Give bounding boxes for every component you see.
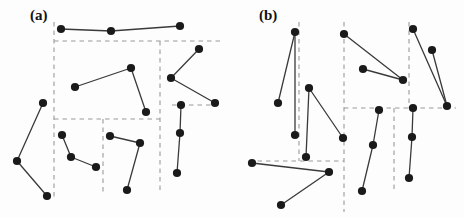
data-point-dot (291, 28, 299, 36)
data-point-dot (123, 186, 131, 194)
edge-segment (278, 32, 295, 103)
edge-segment (362, 145, 373, 191)
data-point-dot (375, 106, 383, 114)
edge-segment (17, 161, 47, 196)
data-point-dot (359, 65, 367, 73)
data-point-dot (248, 159, 256, 167)
data-point-dot (58, 131, 66, 139)
data-point-dot (409, 104, 417, 112)
edge-segment (75, 68, 131, 87)
edge-segments (17, 26, 447, 205)
data-point-dot (176, 129, 184, 137)
data-point-dot (136, 139, 144, 147)
edge-segment (412, 108, 413, 137)
data-point-dot (177, 101, 185, 109)
data-point-dot (142, 108, 150, 116)
data-point-dot (92, 163, 100, 171)
data-point-dot (302, 153, 310, 161)
data-point-dot (305, 84, 313, 92)
data-point-dot (358, 187, 366, 195)
edge-segment (171, 78, 215, 103)
data-point-dot (399, 76, 407, 84)
edge-segment (111, 26, 180, 31)
data-point-dot (43, 192, 51, 200)
data-point-dot (127, 64, 135, 72)
data-point-dot (67, 153, 75, 161)
data-point-dot (369, 141, 377, 149)
data-point-dot (405, 174, 413, 182)
edge-segment (61, 29, 111, 31)
data-point-dot (173, 169, 181, 177)
edge-segment (127, 143, 140, 190)
data-point-dot (274, 99, 282, 107)
scatter-network-figure (0, 0, 464, 217)
edge-segment (131, 68, 146, 112)
data-point-dot (71, 83, 79, 91)
data-point-dot (13, 157, 21, 165)
data-point-dot (167, 74, 175, 82)
edge-segment (252, 163, 329, 172)
edge-segment (180, 105, 181, 133)
data-point-dot (428, 46, 436, 54)
data-point-dot (408, 133, 416, 141)
edge-segment (171, 49, 199, 78)
data-point-dot (443, 102, 451, 110)
edge-segment (344, 34, 403, 80)
dashed-partition-lines (54, 22, 456, 212)
edge-segment (17, 103, 43, 161)
edge-segment (409, 137, 412, 178)
panel-label-a: (a) (30, 8, 48, 23)
data-points (13, 22, 451, 209)
data-point-dot (340, 30, 348, 38)
edge-segment (177, 133, 180, 173)
data-point-dot (106, 132, 114, 140)
edge-segment (110, 136, 140, 143)
edge-segment (306, 88, 309, 157)
data-point-dot (39, 99, 47, 107)
data-point-dot (107, 27, 115, 35)
data-point-dot (277, 201, 285, 209)
edge-segment (413, 29, 447, 106)
data-point-dot (57, 25, 65, 33)
panel-label-b: (b) (259, 8, 277, 23)
data-point-dot (409, 25, 417, 33)
data-point-dot (291, 131, 299, 139)
data-point-dot (195, 45, 203, 53)
edge-segment (281, 172, 329, 205)
edge-segment (373, 110, 379, 145)
data-point-dot (211, 99, 219, 107)
edge-segment (309, 88, 343, 138)
figure-root: (a) (b) (0, 0, 464, 217)
data-point-dot (325, 168, 333, 176)
data-point-dot (176, 22, 184, 30)
data-point-dot (339, 134, 347, 142)
